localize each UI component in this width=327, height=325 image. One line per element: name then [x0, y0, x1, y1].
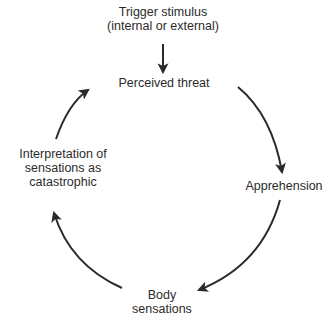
arrow-threat-to-apprehension	[238, 87, 282, 172]
arrow-apprehension-to-body	[199, 200, 280, 290]
node-interpretation-line2: sensations as	[8, 161, 118, 175]
node-interpretation-line3: catastrophic	[8, 175, 118, 189]
node-interpretation-line1: Interpretation of	[8, 147, 118, 161]
node-interpretation: Interpretation of sensations as catastro…	[8, 147, 118, 189]
node-trigger-line2: (internal or external)	[104, 19, 222, 33]
node-body-line1: Body	[127, 288, 197, 302]
node-perceived-threat-line1: Perceived threat	[112, 76, 216, 90]
node-apprehension: Apprehension	[240, 179, 327, 193]
node-body-sensations: Body sensations	[127, 288, 197, 316]
node-body-line2: sensations	[127, 302, 197, 316]
node-apprehension-line1: Apprehension	[240, 179, 327, 193]
node-perceived-threat: Perceived threat	[112, 76, 216, 90]
node-trigger-stimulus: Trigger stimulus (internal or external)	[104, 5, 222, 33]
arrow-interpretation-to-threat	[56, 90, 88, 139]
node-trigger-line1: Trigger stimulus	[104, 5, 222, 19]
arrow-body-to-interpretation	[54, 213, 122, 288]
